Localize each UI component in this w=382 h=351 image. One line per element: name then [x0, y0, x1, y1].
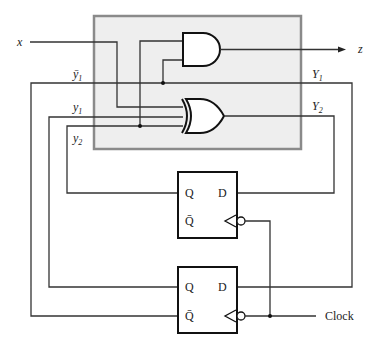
pin-q: Q — [185, 280, 194, 294]
and-gate — [183, 33, 220, 66]
label-Y1: Y1 — [312, 67, 323, 83]
label-y1: y1 — [72, 100, 82, 116]
pin-q: Q — [185, 186, 194, 200]
flip-flop-bottom: Q D Q̄ — [178, 267, 245, 333]
circuit-diagram: x ȳ1 y1 y2 z Y1 Y2 Q D Q̄ Q D Q̄ — [0, 0, 382, 351]
inversion-bubble-icon — [237, 312, 245, 320]
pin-d: D — [218, 280, 227, 294]
junction-dot — [138, 124, 142, 128]
inversion-bubble-icon — [237, 217, 245, 225]
input-label-clock: Clock — [325, 309, 354, 323]
arrow-icon — [338, 47, 346, 53]
input-label-x: x — [16, 35, 23, 49]
pin-qbar: Q̄ — [185, 309, 194, 323]
label-Y2: Y2 — [312, 99, 323, 115]
junction-dot — [161, 81, 165, 85]
output-label-z: z — [357, 42, 363, 56]
label-y2: y2 — [72, 131, 82, 147]
pin-qbar: Q̄ — [185, 214, 194, 228]
junction-dot — [268, 314, 272, 318]
pin-d: D — [218, 186, 227, 200]
flip-flop-top: Q D Q̄ — [178, 172, 245, 238]
label-y1-bar: ȳ1 — [72, 67, 82, 83]
wire-clock-top — [245, 221, 270, 316]
